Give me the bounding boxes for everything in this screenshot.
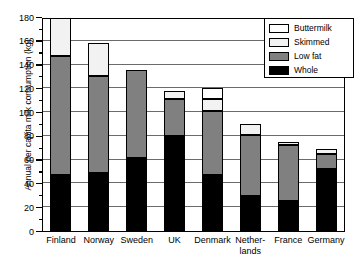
x-axis-label: Germany: [303, 235, 349, 246]
y-tick-label: 140: [19, 61, 34, 70]
y-tick-label: 0: [29, 228, 34, 237]
x-axis-label-line: Germany: [303, 235, 349, 246]
y-tick-label: 40: [24, 180, 34, 189]
bar-segment-skimmed: [240, 124, 261, 135]
legend-label: Buttermilk: [294, 24, 332, 33]
stacked-bar: [240, 124, 261, 232]
y-tick-label: 100: [19, 109, 34, 118]
bar-segment-whole: [278, 201, 299, 232]
y-tick-label: 120: [19, 85, 34, 94]
y-axis-ticks: 020406080100120140160180: [0, 18, 42, 232]
bar-segment-skimmed: [202, 99, 223, 111]
bar-segment-whole: [316, 169, 337, 232]
legend-item-skimmed: Skimmed: [269, 36, 350, 49]
bar-segment-buttermilk: [202, 88, 223, 99]
x-axis-labels: FinlandNorwaySwedenUKDenmarkNether-lands…: [42, 235, 345, 267]
legend-swatch-icon: [269, 24, 289, 33]
bar-segment-skimmed: [316, 149, 337, 154]
y-tick-label: 160: [19, 37, 34, 46]
bar-segment-skimmed: [164, 91, 185, 99]
bar-segment-whole: [202, 175, 223, 232]
bar-segment-whole: [126, 158, 147, 232]
legend-swatch-icon: [269, 66, 289, 75]
legend-item-buttermilk: Buttermilk: [269, 22, 350, 35]
legend-swatch-icon: [269, 52, 289, 61]
stacked-bar: [278, 142, 299, 232]
stacked-bar: [50, 18, 71, 232]
stacked-bar: [316, 149, 337, 232]
stacked-bar: [164, 91, 185, 232]
bar-segment-low-fat: [50, 56, 71, 175]
bar-segment-skimmed: [88, 43, 109, 76]
bar-segment-whole: [164, 136, 185, 232]
legend-label: Skimmed: [294, 38, 329, 47]
stacked-bar: [202, 88, 223, 232]
stacked-bar: [88, 43, 109, 232]
legend-label: Low fat: [294, 52, 321, 61]
bar-segment-whole: [88, 173, 109, 232]
legend-item-low-fat: Low fat: [269, 50, 350, 63]
bar-segment-skimmed: [278, 142, 299, 146]
stacked-bar: [126, 70, 147, 232]
bar-segment-skimmed: [50, 18, 71, 56]
y-tick-label: 60: [24, 156, 34, 165]
bar-segment-low-fat: [88, 76, 109, 172]
bar-segment-low-fat: [202, 111, 223, 175]
bar-segment-whole: [50, 175, 71, 232]
bar-segment-low-fat: [164, 99, 185, 136]
legend-label: Whole: [294, 66, 318, 75]
bar-segment-low-fat: [278, 145, 299, 201]
bar-segment-low-fat: [126, 70, 147, 158]
bar-segment-low-fat: [316, 154, 337, 169]
y-tick-label: 20: [24, 204, 34, 213]
milk-consumption-chart: Annual per capita milk consumption (kg) …: [0, 0, 359, 273]
x-axis-label-line: lands: [227, 246, 273, 257]
legend: ButtermilkSkimmedLow fatWhole: [264, 18, 354, 78]
y-tick-label: 80: [24, 132, 34, 141]
legend-item-whole: Whole: [269, 64, 350, 77]
y-tick-label: 180: [19, 14, 34, 23]
legend-swatch-icon: [269, 38, 289, 47]
bar-segment-whole: [240, 196, 261, 232]
bar-segment-low-fat: [240, 135, 261, 197]
